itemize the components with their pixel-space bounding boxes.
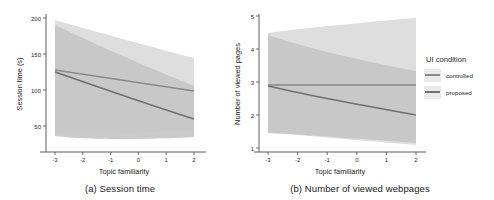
x-tick-label: -2 bbox=[80, 157, 86, 163]
figure-two-panel-regression: Session time (s) 200 150 100 50 bbox=[0, 0, 494, 200]
y-tick-label: 5 bbox=[251, 14, 255, 20]
legend-item-proposed[interactable]: proposed bbox=[424, 86, 492, 99]
panel-session-time: Session time (s) 200 150 100 50 bbox=[0, 0, 240, 200]
y-tick-label: 100 bbox=[31, 88, 42, 94]
panel-a-caption: (a) Session time bbox=[0, 183, 240, 194]
panel-b-x-ticks: -3 -2 -1 0 1 2 bbox=[265, 152, 418, 163]
y-tick-label: 4 bbox=[251, 47, 255, 53]
panel-a-y-ticks: 200 150 100 50 bbox=[31, 16, 46, 130]
x-tick-label: -2 bbox=[295, 157, 301, 163]
y-tick-label: 50 bbox=[34, 124, 41, 130]
x-tick-label: -1 bbox=[325, 157, 331, 163]
y-tick-label: 3 bbox=[251, 80, 255, 86]
panel-a-x-ticks: -3 -2 -1 0 1 2 bbox=[52, 152, 196, 163]
x-tick-label: 1 bbox=[385, 157, 389, 163]
x-tick-label: -3 bbox=[265, 157, 271, 163]
x-tick-label: 0 bbox=[355, 157, 359, 163]
x-tick-label: 0 bbox=[137, 157, 141, 163]
y-tick-label: 2 bbox=[251, 113, 255, 119]
x-tick-label: 2 bbox=[192, 157, 196, 163]
panel-a-xlabel: Topic familiarity bbox=[99, 167, 150, 176]
y-tick-label: 200 bbox=[31, 16, 42, 22]
legend-item-controlled[interactable]: controlled bbox=[424, 69, 492, 82]
y-tick-label: 150 bbox=[31, 52, 42, 58]
panel-b-ylabel: Number of viewed pages bbox=[233, 43, 242, 125]
x-tick-label: 2 bbox=[414, 157, 418, 163]
x-tick-label: 1 bbox=[165, 157, 169, 163]
legend-title: UI condition bbox=[426, 55, 492, 64]
panel-b-bands bbox=[268, 18, 416, 145]
x-tick-label: -3 bbox=[52, 157, 58, 163]
legend-swatch-proposed bbox=[424, 86, 441, 99]
legend: UI condition controlled proposed bbox=[424, 55, 492, 103]
legend-swatch-controlled bbox=[424, 69, 441, 82]
panel-b-y-ticks: 5 4 3 2 1 bbox=[251, 14, 259, 152]
panel-b-caption: (b) Number of viewed webpages bbox=[226, 183, 494, 194]
legend-label-controlled: controlled bbox=[446, 72, 473, 79]
x-tick-label: -1 bbox=[108, 157, 114, 163]
panel-a-plot: Session time (s) 200 150 100 50 bbox=[0, 0, 240, 200]
y-tick-label: 1 bbox=[251, 146, 255, 152]
panel-b-xlabel: Topic familiarity bbox=[315, 167, 366, 176]
panel-a-ylabel: Session time (s) bbox=[15, 58, 24, 111]
legend-label-proposed: proposed bbox=[446, 89, 472, 96]
